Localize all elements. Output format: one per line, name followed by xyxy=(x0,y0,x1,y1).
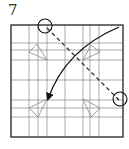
paper-square xyxy=(11,25,123,137)
origami-diagram xyxy=(0,0,129,149)
crease-grid xyxy=(11,25,123,137)
reference-circle-icon xyxy=(113,92,127,106)
reference-circle-icon xyxy=(38,19,52,33)
triangle-marks xyxy=(29,44,100,117)
fold-arrow-icon xyxy=(48,27,119,99)
reference-circles xyxy=(38,19,127,106)
